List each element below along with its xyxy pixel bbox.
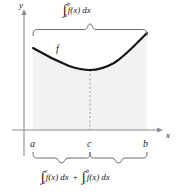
integral-upper-limit-term2: b <box>86 168 89 174</box>
differential-term2: dx <box>101 173 110 182</box>
integral-sign-term1: ∫ c a <box>41 170 45 184</box>
bottom-brace-left <box>33 152 90 163</box>
bottom-integral-sum-formula: ∫ c a f(x) dx + ∫ b c f(x) dx <box>41 170 110 184</box>
integral-lower-limit-term1: a <box>42 179 45 185</box>
integral-upper-limit: b <box>67 1 70 7</box>
differential-term1: dx <box>60 173 69 182</box>
integral-sign: ∫ b a <box>63 3 67 17</box>
x-tick-label-a: a <box>30 139 35 149</box>
integral-upper-limit-term1: c <box>45 168 48 174</box>
plus-operator: + <box>73 173 78 182</box>
x-axis-arrowhead <box>157 127 163 132</box>
y-axis-label: y <box>19 1 23 10</box>
x-tick-label-b: b <box>143 139 148 149</box>
integral-lower-limit-term2: c <box>83 179 86 185</box>
shaded-area <box>33 33 147 130</box>
integral-lower-limit: a <box>64 12 67 18</box>
integral-sign-term2: ∫ b c <box>82 170 86 184</box>
curve-label-f: f <box>56 44 59 54</box>
top-integral-formula: ∫ b a f(x) dx <box>63 3 91 17</box>
x-axis-label: x <box>166 131 170 140</box>
integral-additivity-figure: y x f a c b ∫ b a f(x) dx ∫ c a f(x) dx … <box>0 0 178 195</box>
x-tick-label-c: c <box>87 139 91 149</box>
bottom-brace-right <box>90 152 147 163</box>
differential: dx <box>82 6 91 15</box>
top-brace <box>33 24 147 36</box>
figure-canvas <box>0 0 178 195</box>
